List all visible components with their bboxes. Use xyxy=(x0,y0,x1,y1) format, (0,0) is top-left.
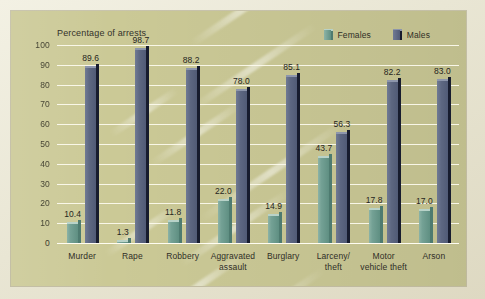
bar-males-robbery[interactable]: 88.2 xyxy=(186,68,197,243)
x-axis-label-line: Murder xyxy=(57,251,107,262)
bar-side-face xyxy=(398,78,401,243)
x-axis-label-line: Rape xyxy=(107,251,157,262)
x-axis-label-line: Robbery xyxy=(158,251,208,262)
bar-face xyxy=(186,68,197,243)
bar-face xyxy=(419,209,430,243)
bar-females-motor-vehicle-theft[interactable]: 17.8 xyxy=(369,208,380,243)
legend-label-females: Females xyxy=(338,30,371,40)
bar-side-face xyxy=(247,87,250,243)
bar-side-face xyxy=(347,130,350,243)
bar-side-face xyxy=(229,197,232,243)
bar-group: 11.888.2 xyxy=(158,45,208,243)
x-axis-label-line: Larceny/ xyxy=(308,251,358,262)
bar-face xyxy=(336,132,347,243)
bar-top-face xyxy=(336,132,347,134)
bar-top-face xyxy=(186,68,197,70)
bar-value-label: 56.3 xyxy=(333,119,350,129)
bar-females-aggravated-assault[interactable]: 22.0 xyxy=(218,199,229,243)
chart-figure: Percentage of arrests Females Males 10 xyxy=(0,0,485,299)
bar-side-face xyxy=(430,207,433,243)
bar-face xyxy=(168,220,179,243)
x-axis-label-line: vehicle theft xyxy=(359,262,409,273)
bar-value-label: 43.7 xyxy=(315,143,332,153)
y-axis-tick-label: 80 xyxy=(40,80,50,90)
background-streak xyxy=(189,11,292,47)
bar-top-face xyxy=(369,208,380,210)
y-axis-tick-label: 30 xyxy=(40,179,50,189)
bar-top-face xyxy=(419,209,430,211)
x-axis-label: Aggravatedassault xyxy=(208,251,258,273)
bar-value-label: 22.0 xyxy=(215,186,232,196)
bar-top-face xyxy=(135,48,146,50)
x-axis-label: Arson xyxy=(409,251,459,262)
legend-item-females: Females xyxy=(324,29,371,40)
x-axis-label-line: Arson xyxy=(409,251,459,262)
bar-top-face xyxy=(67,222,78,224)
bar-face xyxy=(67,222,78,243)
bar-females-arson[interactable]: 17.0 xyxy=(419,209,430,243)
bar-value-label: 83.0 xyxy=(434,66,451,76)
bar-group: 1.398.7 xyxy=(107,45,157,243)
bar-face xyxy=(437,79,448,243)
x-axis-label: Burglary xyxy=(258,251,308,262)
bar-males-rape[interactable]: 98.7 xyxy=(135,48,146,243)
legend-item-males: Males xyxy=(393,29,430,40)
legend-label-males: Males xyxy=(407,30,430,40)
y-axis-tick-label: 60 xyxy=(40,119,50,129)
bar-face xyxy=(286,75,297,243)
bar-value-label: 17.0 xyxy=(416,196,433,206)
x-axis-label-line: Aggravated xyxy=(208,251,258,262)
bar-value-label: 78.0 xyxy=(233,76,250,86)
bar-top-face xyxy=(218,199,229,201)
plot-area: 100908070605040302010010.489.61.398.711.… xyxy=(57,45,459,243)
x-axis-label-line: Motor xyxy=(359,251,409,262)
y-axis-tick-label: 0 xyxy=(45,238,50,248)
bar-males-murder[interactable]: 89.6 xyxy=(85,66,96,243)
bar-side-face xyxy=(197,66,200,243)
bar-females-murder[interactable]: 10.4 xyxy=(67,222,78,243)
bar-top-face xyxy=(318,156,329,158)
axis-baseline xyxy=(57,243,459,244)
legend-swatch-females-icon xyxy=(324,29,333,40)
bar-face xyxy=(369,208,380,243)
bar-value-label: 82.2 xyxy=(384,67,401,77)
bar-face xyxy=(218,199,229,243)
bar-top-face xyxy=(387,80,398,82)
bar-females-robbery[interactable]: 11.8 xyxy=(168,220,179,243)
bar-females-larceny-theft[interactable]: 43.7 xyxy=(318,156,329,243)
bar-side-face xyxy=(380,206,383,243)
bar-side-face xyxy=(96,64,99,243)
x-axis-label: Murder xyxy=(57,251,107,262)
bar-value-label: 11.8 xyxy=(165,207,181,217)
x-axis-label-line: theft xyxy=(308,262,358,273)
x-axis-label: Motorvehicle theft xyxy=(359,251,409,273)
bar-males-motor-vehicle-theft[interactable]: 82.2 xyxy=(387,80,398,243)
bar-side-face xyxy=(78,220,81,243)
bar-face xyxy=(135,48,146,243)
bar-side-face xyxy=(279,212,282,244)
bar-side-face xyxy=(297,73,300,243)
bar-face xyxy=(85,66,96,243)
bar-females-burglary[interactable]: 14.9 xyxy=(268,214,279,244)
chart-panel: Percentage of arrests Females Males 10 xyxy=(11,11,466,286)
bar-males-arson[interactable]: 83.0 xyxy=(437,79,448,243)
x-axis-labels: MurderRapeRobberyAggravatedassaultBurgla… xyxy=(57,247,459,286)
y-axis-tick-label: 90 xyxy=(40,60,50,70)
x-axis-label-line: Burglary xyxy=(258,251,308,262)
bar-top-face xyxy=(286,75,297,77)
bar-face xyxy=(268,214,279,244)
bar-males-larceny-theft[interactable]: 56.3 xyxy=(336,132,347,243)
x-axis-label-line: assault xyxy=(208,262,258,273)
bar-face xyxy=(236,89,247,243)
y-axis-tick-label: 50 xyxy=(40,139,50,149)
bar-males-aggravated-assault[interactable]: 78.0 xyxy=(236,89,247,243)
bar-group: 17.882.2 xyxy=(359,45,409,243)
bar-males-burglary[interactable]: 85.1 xyxy=(286,75,297,243)
bar-top-face xyxy=(168,220,179,222)
bar-value-label: 89.6 xyxy=(82,53,99,63)
bar-side-face xyxy=(329,154,332,243)
y-axis-tick-label: 70 xyxy=(40,99,50,109)
y-axis-tick-label: 20 xyxy=(40,198,50,208)
bar-top-face xyxy=(268,214,279,216)
bar-value-label: 17.8 xyxy=(366,195,383,205)
